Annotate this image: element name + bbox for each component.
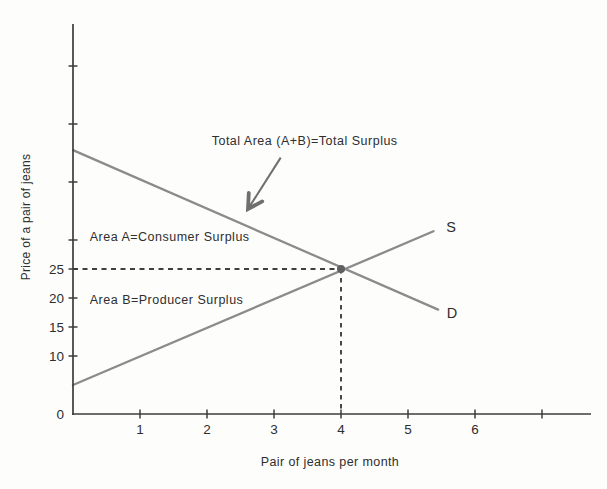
supply-demand-chart: SD010152025123456Pair of jeans per month… [0, 0, 607, 489]
x-tick-label: 5 [404, 422, 412, 437]
x-tick-label: 4 [337, 422, 345, 437]
demand-curve-label: D [447, 305, 457, 321]
y-axis-label: Price of a pair of jeans [19, 154, 33, 281]
area-b-annotation: Area B=Producer Surplus [90, 293, 244, 307]
y-tick-label: 10 [49, 349, 64, 364]
area-a-annotation: Area A=Consumer Surplus [90, 230, 250, 244]
x-axis-label: Pair of jeans per month [261, 455, 399, 469]
y-tick-label: 0 [56, 407, 64, 422]
supply-demand-figure: SD010152025123456Pair of jeans per month… [0, 0, 607, 489]
x-tick-label: 6 [471, 422, 479, 437]
y-tick-label: 20 [49, 291, 64, 306]
equilibrium-point [337, 265, 345, 273]
y-tick-label: 25 [49, 262, 64, 277]
x-tick-label: 1 [136, 422, 144, 437]
total-surplus-annotation: Total Area (A+B)=Total Surplus [212, 134, 398, 148]
x-tick-label: 3 [270, 422, 278, 437]
chart-background [0, 0, 607, 489]
supply-curve-label: S [446, 219, 456, 235]
y-tick-label: 15 [49, 320, 64, 335]
x-tick-label: 2 [203, 422, 211, 437]
